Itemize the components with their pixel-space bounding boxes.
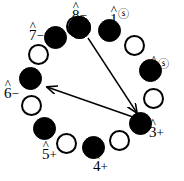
label-degree-4: ^4+ [93, 158, 108, 174]
caret-icon: ^ [43, 138, 49, 151]
node-open-6 [28, 44, 49, 65]
arrow-3-to-6 [47, 87, 133, 117]
caret-icon: ^ [73, 0, 79, 12]
label-degree-7: ^7− [29, 27, 44, 43]
caret-icon: ^ [94, 150, 100, 163]
node-open-5 [21, 95, 42, 116]
label-degree-8: ^8− [72, 7, 87, 23]
caret-icon: ^ [30, 19, 36, 32]
label-degree-6: ^6− [4, 85, 19, 101]
chromatic-circle-diagram: ^8− ^1ⓢ ^2ⓢ ^3+ ^4+ ^5+ ^6− ^7− [0, 0, 184, 181]
node-degree-7 [44, 26, 67, 49]
node-open-1 [124, 35, 145, 56]
node-open-3 [109, 130, 130, 151]
circled-s-icon: ⓢ [118, 9, 129, 20]
node-open-4 [56, 133, 77, 154]
caret-icon: ^ [150, 116, 156, 129]
caret-icon: ^ [111, 3, 117, 16]
label-degree-2: ^2ⓢ [150, 59, 169, 77]
caret-icon: ^ [151, 53, 157, 66]
circled-s-icon: ⓢ [158, 59, 169, 70]
label-degree-5: ^5+ [42, 146, 57, 162]
label-degree-3: ^3+ [149, 124, 164, 140]
caret-icon: ^ [5, 77, 11, 90]
node-degree-6 [19, 67, 42, 90]
label-degree-1: ^1ⓢ [110, 9, 129, 27]
node-open-2 [143, 88, 164, 109]
